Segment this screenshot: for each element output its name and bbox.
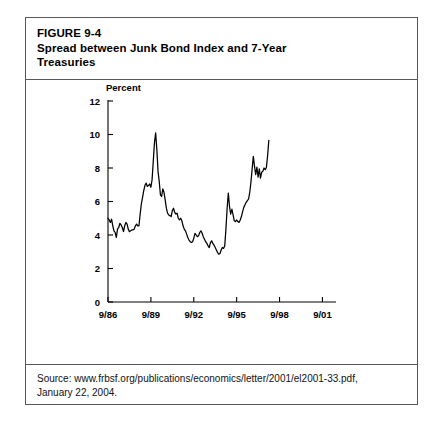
line-chart: Percent0246810129/869/899/929/959/989/01 — [26, 80, 417, 364]
x-tick-label: 9/95 — [227, 309, 246, 320]
y-axis-title: Percent — [106, 82, 142, 93]
figure-title-block: FIGURE 9-4 Spread between Junk Bond Inde… — [26, 18, 417, 80]
figure-number: FIGURE 9-4 — [37, 26, 407, 41]
figure-title-line-1: Spread between Junk Bond Index and 7-Yea… — [37, 41, 407, 56]
y-tick-label: 2 — [95, 263, 100, 274]
x-tick-label: 9/89 — [142, 309, 161, 320]
y-tick-label: 4 — [95, 230, 101, 241]
x-tick-label: 9/98 — [270, 309, 289, 320]
data-series-line — [108, 133, 269, 254]
figure-source-block: Source: www.frbsf.org/publications/econo… — [26, 365, 417, 405]
figure-title-line-2: Treasuries — [37, 55, 407, 70]
y-tick-label: 0 — [95, 297, 100, 308]
figure-frame: FIGURE 9-4 Spread between Junk Bond Inde… — [25, 17, 418, 405]
y-tick-label: 12 — [89, 96, 100, 107]
y-tick-label: 6 — [95, 196, 100, 207]
x-tick-label: 9/86 — [99, 309, 118, 320]
x-tick-label: 9/01 — [313, 309, 332, 320]
chart-area: Percent0246810129/869/899/929/959/989/01 — [26, 80, 417, 365]
y-tick-label: 8 — [95, 163, 100, 174]
source-line-1: Source: www.frbsf.org/publications/econo… — [37, 372, 407, 386]
y-tick-label: 10 — [89, 129, 100, 140]
x-tick-label: 9/92 — [185, 309, 204, 320]
source-line-2: January 22, 2004. — [37, 386, 407, 400]
